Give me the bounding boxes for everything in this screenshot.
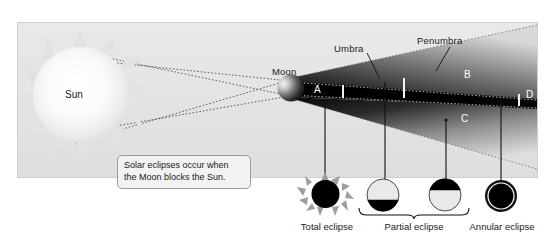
total-eclipse-icon [296,172,356,216]
caption-partial-eclipse: Partial eclipse [370,221,458,232]
callout-line-2: the Moon blocks the Sun. [124,172,244,184]
caption-annular-eclipse: Annular eclipse [455,221,549,232]
callout-box: Solar eclipses occur when the Moon block… [117,155,251,189]
annular-eclipse-icon [480,176,522,216]
callout-line-1: Solar eclipses occur when [124,160,244,172]
eclipse-diagram-figure: Sun Moon Umbra Penumbra A B C D Solar ec… [0,0,554,238]
partial-eclipse-bracket [358,208,470,219]
caption-total-eclipse: Total eclipse [281,221,373,232]
marker-drop-lines [0,0,554,238]
